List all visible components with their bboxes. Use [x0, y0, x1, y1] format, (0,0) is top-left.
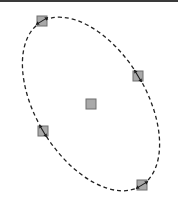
- drawing-canvas[interactable]: [0, 0, 178, 204]
- move-handle[interactable]: [86, 99, 96, 109]
- handle-major-bottom[interactable]: [135, 180, 149, 191]
- handles-layer: [35, 16, 149, 191]
- handle-major-top[interactable]: [35, 16, 49, 27]
- handle-minor-left[interactable]: [38, 124, 49, 138]
- handle-center[interactable]: [86, 99, 96, 109]
- handle-minor-right[interactable]: [133, 69, 144, 83]
